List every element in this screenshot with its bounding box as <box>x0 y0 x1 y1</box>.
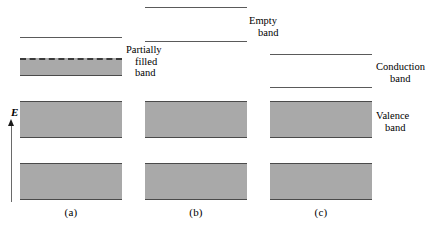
column-b-filled-band-lower <box>145 163 247 200</box>
partially-filled-band-label-line2: filled <box>126 56 162 68</box>
valence-band-label-line2: band <box>376 122 409 134</box>
column-a-caption: (a) <box>20 206 122 218</box>
column-c-filled-band-lower <box>270 163 372 200</box>
column-a-filled-band-lower <box>20 163 122 200</box>
partially-filled-band-label: Partially filled band <box>126 44 162 79</box>
column-b-empty-band-bottom-line <box>145 41 247 42</box>
column-a-filled-band-upper <box>20 101 122 138</box>
energy-axis-line <box>11 126 12 202</box>
energy-axis-arrow-icon <box>8 119 14 126</box>
column-c-conduction-band-top-line <box>270 54 372 55</box>
column-c-valence-band <box>270 101 372 138</box>
column-c-conduction-band-bottom-line <box>270 87 372 88</box>
energy-band-diagram: (a) (b) (c) Partially filled band Empty … <box>0 0 430 231</box>
conduction-band-label-line2: band <box>376 73 425 85</box>
partially-filled-band-label-line3: band <box>126 67 162 79</box>
empty-band-label-line1: Empty <box>249 15 277 26</box>
energy-axis-label: E <box>11 106 18 118</box>
column-b-caption: (b) <box>145 206 247 218</box>
empty-band-label-line2: band <box>249 27 278 39</box>
column-c-caption: (c) <box>270 206 372 218</box>
partially-filled-band-label-line1: Partially <box>126 44 162 55</box>
valence-band-label-line1: Valence <box>376 110 409 121</box>
conduction-band-label-line1: Conduction <box>376 61 425 72</box>
column-b-empty-band-top-line <box>145 7 247 8</box>
valence-band-label: Valence band <box>376 110 409 133</box>
column-a-upper-level-line <box>20 37 122 38</box>
conduction-band-label: Conduction band <box>376 61 425 84</box>
empty-band-label: Empty band <box>249 15 278 38</box>
column-b-filled-band-upper <box>145 101 247 138</box>
column-a-partially-filled-band <box>20 58 122 76</box>
